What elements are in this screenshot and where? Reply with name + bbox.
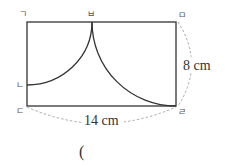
arc-right xyxy=(92,22,176,106)
vertex-label-nieun: ㄴ xyxy=(16,80,24,90)
geometry-diagram: ㄱ ㅂ ㅁ ㄴ ㄷ ㄹ 8 cm 14 cm ( xyxy=(0,0,235,166)
vertex-label-digeut: ㄷ xyxy=(16,106,24,116)
vertex-label-rieul: ㄹ xyxy=(178,107,186,117)
vertex-label-mieum: ㅁ xyxy=(178,10,186,20)
vertex-label-bieup: ㅂ xyxy=(87,9,95,19)
vertex-label-giyeok: ㄱ xyxy=(19,9,27,19)
width-label: 14 cm xyxy=(84,113,119,128)
height-label: 8 cm xyxy=(183,58,211,73)
answer-paren: ( xyxy=(79,143,84,161)
rectangle xyxy=(27,22,176,106)
arc-left xyxy=(27,22,92,85)
